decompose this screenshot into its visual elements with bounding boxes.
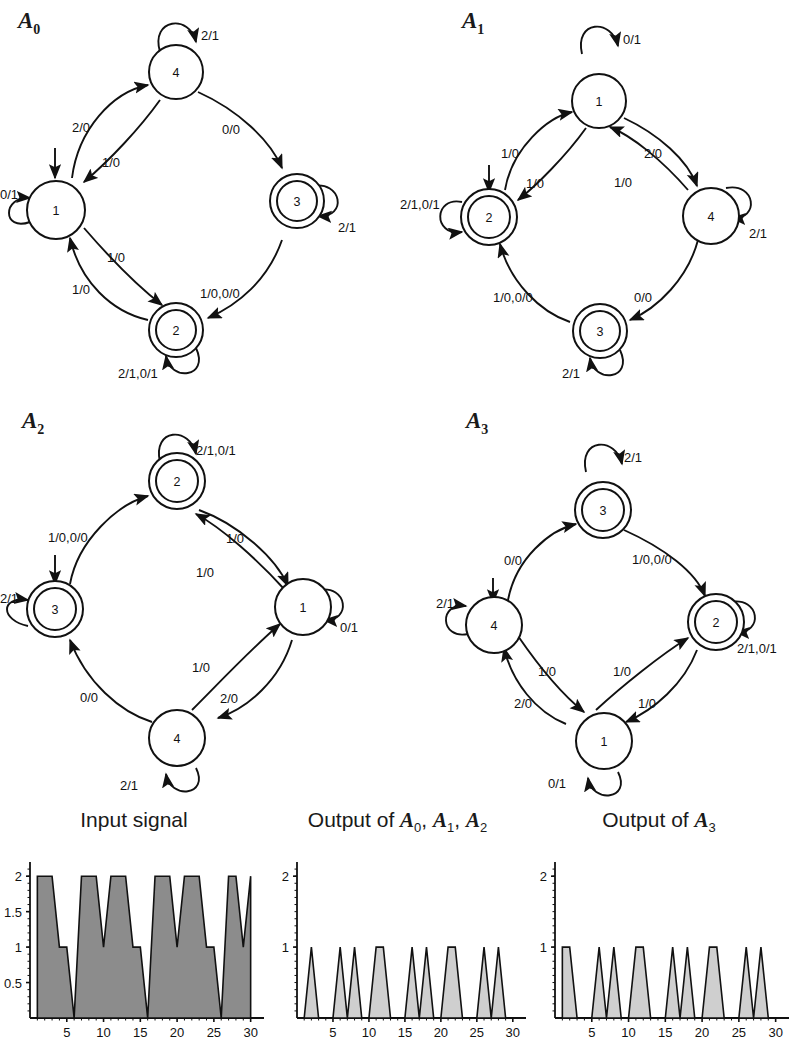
self-loop-label-3-a0: 2/1 <box>338 220 356 235</box>
state-node-2-a3[interactable]: 2 <box>688 594 744 650</box>
svg-text:0.5: 0.5 <box>4 976 22 991</box>
chart-area-input <box>37 876 250 1018</box>
state-node-2-a1[interactable]: 2 <box>461 189 517 245</box>
edge-label-2-to-1-a1: 1/0 <box>501 146 519 161</box>
automaton-panel-a2: A2 2 3 1 4 1/0,0/0 <box>0 400 400 800</box>
self-loop-label-3-a2: 2/1 <box>0 591 18 606</box>
edge-3-to-2-a0 <box>208 240 282 318</box>
edge-4-to-3-a1 <box>630 240 698 320</box>
state-node-2-a2[interactable]: 2 <box>149 453 205 509</box>
state-node-1-a0[interactable]: 1 <box>27 181 85 239</box>
svg-text:1: 1 <box>596 95 603 109</box>
self-loop-label-1-a3: 0/1 <box>548 776 566 791</box>
svg-text:4: 4 <box>174 732 181 746</box>
chart-title-a3-symbol: A <box>694 808 708 832</box>
svg-text:2: 2 <box>173 324 180 338</box>
self-loop-4-a2 <box>166 768 199 791</box>
automaton-graph-a0: 4 1 3 2 2/0 1/0 0/0 1/0,0/0 1/0 1/0 2/1 … <box>0 0 400 400</box>
svg-text:20: 20 <box>434 1025 448 1040</box>
edge-label-3-to-2-a0: 1/0,0/0 <box>200 286 240 301</box>
automaton-title-a3-subscript: 3 <box>481 422 488 437</box>
automaton-panel-a1: A1 1 2 4 3 1/0 1 <box>400 0 793 400</box>
svg-text:20: 20 <box>170 1025 184 1040</box>
svg-text:2: 2 <box>282 869 289 884</box>
edge-label-1-to-2-a1: 1/0 <box>526 176 544 191</box>
edge-label-2-to-1-a3: 1/0 <box>638 696 656 711</box>
svg-text:1: 1 <box>300 601 307 615</box>
automaton-title-a1: A1 <box>462 8 484 38</box>
chart-title-a1-sub: 1 <box>447 820 454 835</box>
svg-text:1: 1 <box>282 940 289 955</box>
state-node-1-a1[interactable]: 1 <box>572 74 626 128</box>
edge-label-4-to-1-a1: 1/0 <box>614 175 632 190</box>
svg-text:3: 3 <box>597 325 604 339</box>
automaton-graph-a3: 3 4 2 1 0/0 1/0,0/0 1/0 1/0 2/0 1/0 2/1 … <box>400 400 793 800</box>
edge-4-to-3-a2 <box>70 640 152 722</box>
chart-panel-input: Input signal 0.511.52 51015202530 <box>0 800 268 1046</box>
svg-text:5: 5 <box>329 1025 336 1040</box>
edge-label-1-to-2-a2: 1/0 <box>196 565 214 580</box>
state-node-4-a2[interactable]: 4 <box>149 710 205 766</box>
state-node-4-a0[interactable]: 4 <box>149 45 203 99</box>
svg-text:2: 2 <box>15 869 22 884</box>
svg-text:30: 30 <box>768 1025 782 1040</box>
state-node-3-a0[interactable]: 3 <box>270 174 324 228</box>
self-loop-label-4-a3: 2/1 <box>436 596 454 611</box>
chart-title-input-text: Input signal <box>80 808 187 831</box>
state-node-1-a2[interactable]: 1 <box>275 579 331 635</box>
chart-title-output-a3: Output of A3 <box>525 808 793 835</box>
self-loop-label-1-a2: 0/1 <box>340 620 358 635</box>
chart-yticks-output-a3: 12 <box>540 869 555 1011</box>
self-loop-label-2-a3: 2/1,0/1 <box>737 641 777 656</box>
state-node-4-a1[interactable]: 4 <box>683 188 739 244</box>
chart-title-output-a012-prefix: Output of <box>308 808 400 831</box>
self-loop-2-a1 <box>440 201 462 232</box>
state-node-3-a3[interactable]: 3 <box>575 482 631 538</box>
edge-label-1-to-2-a0: 1/0 <box>107 250 125 265</box>
self-loop-label-3-a1: 2/1 <box>562 366 580 381</box>
chart-title-input: Input signal <box>0 808 268 832</box>
automaton-title-a0: A0 <box>18 8 40 38</box>
svg-text:2: 2 <box>713 616 720 630</box>
chart-xticks-output-a012: 51015202530 <box>304 1018 520 1040</box>
state-node-3-a1[interactable]: 3 <box>573 304 627 358</box>
edge-label-3-to-2-a1: 1/0,0/0 <box>493 290 533 305</box>
svg-text:4: 4 <box>173 66 180 80</box>
chart-panel-output-a012: Output of A0, A1, A2 12 51015202530 <box>265 800 530 1046</box>
state-node-4-a3[interactable]: 4 <box>466 597 522 653</box>
state-node-3-a2[interactable]: 3 <box>27 581 83 637</box>
svg-text:5: 5 <box>63 1025 70 1040</box>
svg-text:1: 1 <box>540 940 547 955</box>
svg-text:4: 4 <box>708 210 715 224</box>
edge-label-1-to-4-a3: 2/0 <box>514 696 532 711</box>
svg-text:1: 1 <box>53 204 60 218</box>
automaton-graph-a1: 1 2 4 3 1/0 1/0 2/0 1/0 0/0 1/0,0/0 0/1 … <box>400 0 793 400</box>
svg-text:10: 10 <box>621 1025 635 1040</box>
edge-label-3-to-2-a3: 1/0,0/0 <box>632 552 672 567</box>
svg-text:25: 25 <box>732 1025 746 1040</box>
chart-svg-output-a3: 12 51015202530 <box>525 846 793 1046</box>
svg-text:4: 4 <box>491 619 498 633</box>
svg-text:3: 3 <box>600 504 607 518</box>
chart-title-a0-symbol: A <box>400 808 414 832</box>
svg-text:15: 15 <box>398 1025 412 1040</box>
edge-label-1-to-4-a2: 2/0 <box>220 691 238 706</box>
edge-label-3-to-2-a2: 1/0,0/0 <box>48 530 88 545</box>
automaton-title-a0-subscript: 0 <box>33 22 40 37</box>
self-loop-label-2-a2: 2/1,0/1 <box>196 443 236 458</box>
self-loop-1-a3 <box>588 772 621 795</box>
svg-text:10: 10 <box>362 1025 376 1040</box>
svg-text:25: 25 <box>470 1025 484 1040</box>
self-loop-label-1-a1: 0/1 <box>623 32 641 47</box>
state-node-1-a3[interactable]: 1 <box>576 713 632 769</box>
chart-title-a1-symbol: A <box>433 808 447 832</box>
svg-text:5: 5 <box>588 1025 595 1040</box>
chart-svg-output-a012: 12 51015202530 <box>265 846 530 1046</box>
svg-text:1.5: 1.5 <box>4 905 22 920</box>
chart-yticks-input: 0.511.52 <box>4 869 30 1011</box>
automaton-panel-a3: A3 3 4 2 1 0/0 1 <box>400 400 793 800</box>
chart-xticks-input: 51015202530 <box>37 1018 258 1040</box>
automaton-graph-a2: 2 3 1 4 1/0,0/0 1/0 1/0 2/0 1/0 0/0 2/1,… <box>0 400 400 800</box>
edge-label-1-to-2-a3: 1/0 <box>613 664 631 679</box>
state-node-2-a0[interactable]: 2 <box>149 303 203 357</box>
